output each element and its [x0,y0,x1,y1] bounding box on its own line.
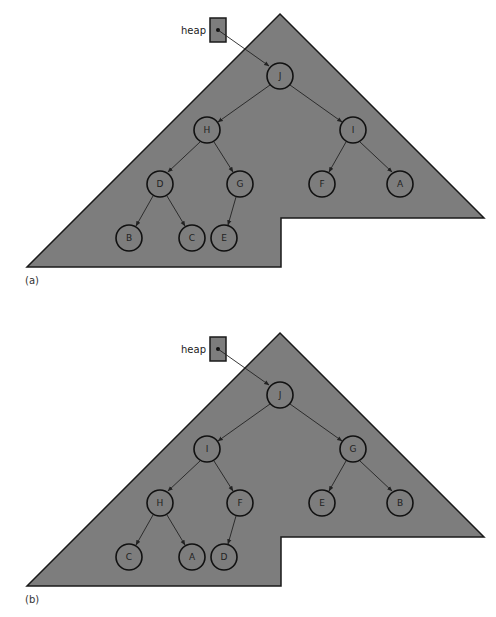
caption-a: (a) [25,275,39,286]
svg-text:G: G [237,179,244,189]
svg-text:C: C [189,233,195,243]
svg-text:I: I [352,125,355,135]
svg-text:A: A [189,552,196,562]
node-r: I [340,117,366,143]
heap-diagram: heap J H I D G F A B C E (a) heap [0,0,496,617]
node-r: G [340,436,366,462]
svg-text:G: G [350,444,357,454]
node-llr: A [179,544,205,570]
svg-text:E: E [221,233,227,243]
node-l: I [194,436,220,462]
svg-text:B: B [126,233,132,243]
svg-text:B: B [397,498,403,508]
svg-text:H: H [204,125,211,135]
node-l: H [194,117,220,143]
node-lll: B [116,225,142,251]
svg-text:D: D [221,552,228,562]
panel-a: heap J H I D G F A B C E (a) [25,14,484,286]
node-root: J [267,63,293,89]
node-lrl: E [211,225,237,251]
svg-text:F: F [237,498,242,508]
node-llr: C [179,225,205,251]
svg-text:J: J [278,71,282,81]
svg-text:I: I [206,444,209,454]
heap-label: heap [181,344,206,355]
node-lll: C [116,544,142,570]
node-lrl: D [211,544,237,570]
node-ll: D [147,171,173,197]
node-lr: G [227,171,253,197]
node-lr: F [227,490,253,516]
svg-text:D: D [157,179,164,189]
node-rr: A [387,171,413,197]
svg-text:C: C [126,552,132,562]
svg-text:A: A [397,179,404,189]
node-root: J [267,382,293,408]
panel-b: heap J I G H F E B C A D (b) [25,333,484,605]
heap-label: heap [181,25,206,36]
svg-text:J: J [278,390,282,400]
svg-text:H: H [157,498,164,508]
heap-shape [27,333,484,586]
node-rr: B [387,490,413,516]
caption-b: (b) [25,594,39,605]
node-rl: E [309,490,335,516]
heap-shape [27,14,484,267]
svg-text:E: E [319,498,325,508]
node-ll: H [147,490,173,516]
svg-text:F: F [319,179,324,189]
node-rl: F [309,171,335,197]
